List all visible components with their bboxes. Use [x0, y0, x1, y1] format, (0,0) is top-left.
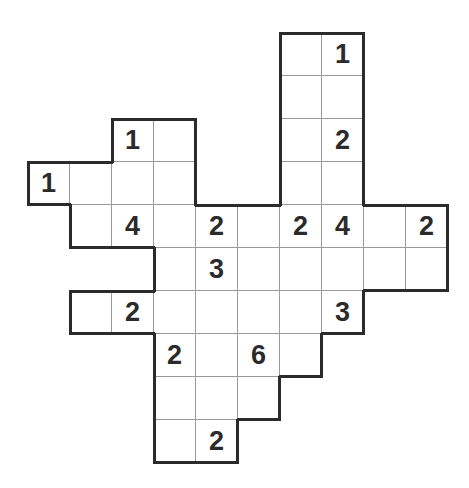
empty-cell[interactable] [280, 334, 322, 377]
grid-outline [363, 289, 407, 292]
grid-outline [195, 461, 239, 464]
grid-outline [362, 290, 365, 335]
grid-outline [111, 118, 114, 163]
empty-cell[interactable] [280, 162, 322, 205]
clue-cell[interactable]: 1 [112, 119, 154, 162]
grid-outline [27, 161, 30, 206]
clue-cell[interactable]: 2 [112, 291, 154, 334]
empty-cell[interactable] [280, 248, 322, 291]
grid-outline [111, 246, 155, 249]
grid-outline [69, 161, 113, 164]
grid-outline [69, 290, 113, 293]
clue-cell[interactable]: 2 [154, 334, 196, 377]
clue-cell[interactable]: 4 [112, 205, 154, 248]
empty-cell[interactable] [112, 162, 154, 205]
grid-outline [153, 333, 156, 378]
grid-outline [279, 161, 282, 206]
grid-outline [446, 204, 449, 249]
clue-cell[interactable]: 4 [322, 205, 364, 248]
grid-outline [69, 246, 113, 249]
empty-cell[interactable] [322, 248, 364, 291]
grid-outline [237, 204, 281, 207]
empty-cell[interactable] [196, 291, 238, 334]
grid-outline [362, 118, 365, 163]
grid-outline [153, 118, 197, 121]
grid-outline [279, 32, 282, 77]
clue-cell[interactable]: 3 [322, 291, 364, 334]
empty-cell[interactable] [196, 334, 238, 377]
grid-outline [69, 332, 113, 335]
grid-outline [153, 247, 156, 292]
grid-outline [237, 418, 281, 421]
empty-cell[interactable] [70, 205, 112, 248]
grid-outline [111, 290, 155, 293]
empty-cell[interactable] [364, 248, 406, 291]
empty-cell[interactable] [322, 76, 364, 119]
empty-cell[interactable] [280, 291, 322, 334]
empty-cell[interactable] [154, 377, 196, 420]
grid-outline [195, 204, 239, 207]
clue-cell[interactable]: 2 [406, 205, 448, 248]
empty-cell[interactable] [238, 248, 280, 291]
grid-outline [362, 161, 365, 206]
empty-cell[interactable] [70, 291, 112, 334]
empty-cell[interactable] [196, 377, 238, 420]
grid-outline [279, 32, 323, 35]
empty-cell[interactable] [154, 162, 196, 205]
grid-outline [446, 247, 449, 292]
empty-cell[interactable] [280, 119, 322, 162]
empty-cell[interactable] [280, 33, 322, 76]
grid-outline [405, 289, 449, 292]
clue-cell[interactable]: 2 [196, 420, 238, 463]
empty-cell[interactable] [154, 291, 196, 334]
grid-outline [363, 204, 407, 207]
empty-cell[interactable] [238, 377, 280, 420]
clue-cell[interactable]: 6 [238, 334, 280, 377]
clue-cell[interactable]: 1 [28, 162, 70, 205]
empty-cell[interactable] [406, 248, 448, 291]
empty-cell[interactable] [154, 248, 196, 291]
grid-outline [362, 75, 365, 120]
grid-outline [320, 333, 323, 378]
grid-outline [279, 75, 282, 120]
empty-cell[interactable] [154, 119, 196, 162]
grid-outline [27, 203, 71, 206]
empty-cell[interactable] [238, 291, 280, 334]
empty-cell[interactable] [154, 420, 196, 463]
empty-cell[interactable] [238, 205, 280, 248]
grid-outline [111, 332, 155, 335]
grid-outline [321, 332, 365, 335]
clue-cell[interactable]: 2 [280, 205, 322, 248]
clue-cell[interactable]: 1 [322, 33, 364, 76]
empty-cell[interactable] [322, 162, 364, 205]
grid-outline [153, 376, 156, 421]
grid-outline [321, 32, 365, 35]
grid-outline [153, 461, 197, 464]
grid-outline [194, 161, 197, 206]
empty-cell[interactable] [154, 205, 196, 248]
grid-outline [279, 375, 323, 378]
grid-outline [236, 419, 239, 464]
clue-cell[interactable]: 3 [196, 248, 238, 291]
empty-cell[interactable] [280, 76, 322, 119]
empty-cell[interactable] [70, 162, 112, 205]
grid-outline [27, 161, 71, 164]
grid-outline [279, 118, 282, 163]
grid-outline [194, 118, 197, 163]
grid-outline [362, 32, 365, 77]
clue-cell[interactable]: 2 [322, 119, 364, 162]
grid-outline [69, 204, 72, 249]
grid-outline [278, 376, 281, 421]
grid-outline [405, 204, 449, 207]
grid-outline [111, 118, 155, 121]
grid-outline [153, 419, 156, 464]
clue-cell[interactable]: 2 [196, 205, 238, 248]
grid-outline [69, 290, 72, 335]
puzzle-board: 112142242323262 [0, 0, 469, 488]
empty-cell[interactable] [364, 205, 406, 248]
